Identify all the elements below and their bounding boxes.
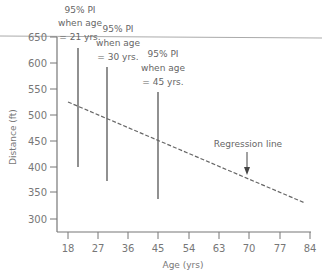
svg-text:95% PI: 95% PI [65,5,96,15]
y-tick-label: 650 [28,32,47,43]
y-tick-label: 600 [28,58,47,69]
x-tick-label: 54 [183,243,196,254]
svg-text:95% PI: 95% PI [148,49,179,59]
svg-text:when age: when age [58,18,102,28]
svg-text:= 30 yrs.: = 30 yrs. [97,52,138,62]
top-rule [0,36,322,38]
x-ticks [68,232,310,239]
pi-label-age-30: 95% PI when age = 30 yrs. [96,24,140,62]
svg-text:when age: when age [141,63,185,73]
x-tick-label: 77 [274,243,287,254]
svg-text:when age: when age [96,38,140,48]
y-tick-labels: 650 600 550 500 450 400 350 300 [28,32,47,225]
x-tick-label: 63 [213,243,226,254]
x-tick-label: 27 [92,243,105,254]
x-tick-label: 36 [122,243,135,254]
pi-label-age-45: 95% PI when age = 45 yrs. [141,49,185,87]
y-tick-label: 450 [28,136,47,147]
arrow-down-icon [244,167,250,175]
svg-text:= 21 yrs.: = 21 yrs. [59,32,100,42]
y-axis-title: Distance (ft) [8,109,18,165]
y-ticks [50,37,57,219]
y-tick-label: 400 [28,162,47,173]
y-tick-label: 500 [28,110,47,121]
x-tick-label: 84 [304,243,317,254]
svg-text:95% PI: 95% PI [103,24,134,34]
x-tick-label: 18 [62,243,75,254]
y-tick-label: 350 [28,187,47,198]
svg-text:= 45 yrs.: = 45 yrs. [142,77,183,87]
regression-label: Regression line [214,139,283,149]
pi-label-age-21: 95% PI when age = 21 yrs. [58,5,102,42]
x-tick-label: 45 [152,243,165,254]
chart: 650 600 550 500 450 400 350 300 18 27 36… [0,0,322,275]
x-tick-labels: 18 27 36 45 54 63 70 77 84 [62,243,317,254]
x-tick-label: 70 [243,243,256,254]
y-tick-label: 300 [28,214,47,225]
x-axis-title: Age (yrs) [162,260,203,270]
regression-line [68,102,305,203]
y-tick-label: 550 [28,84,47,95]
